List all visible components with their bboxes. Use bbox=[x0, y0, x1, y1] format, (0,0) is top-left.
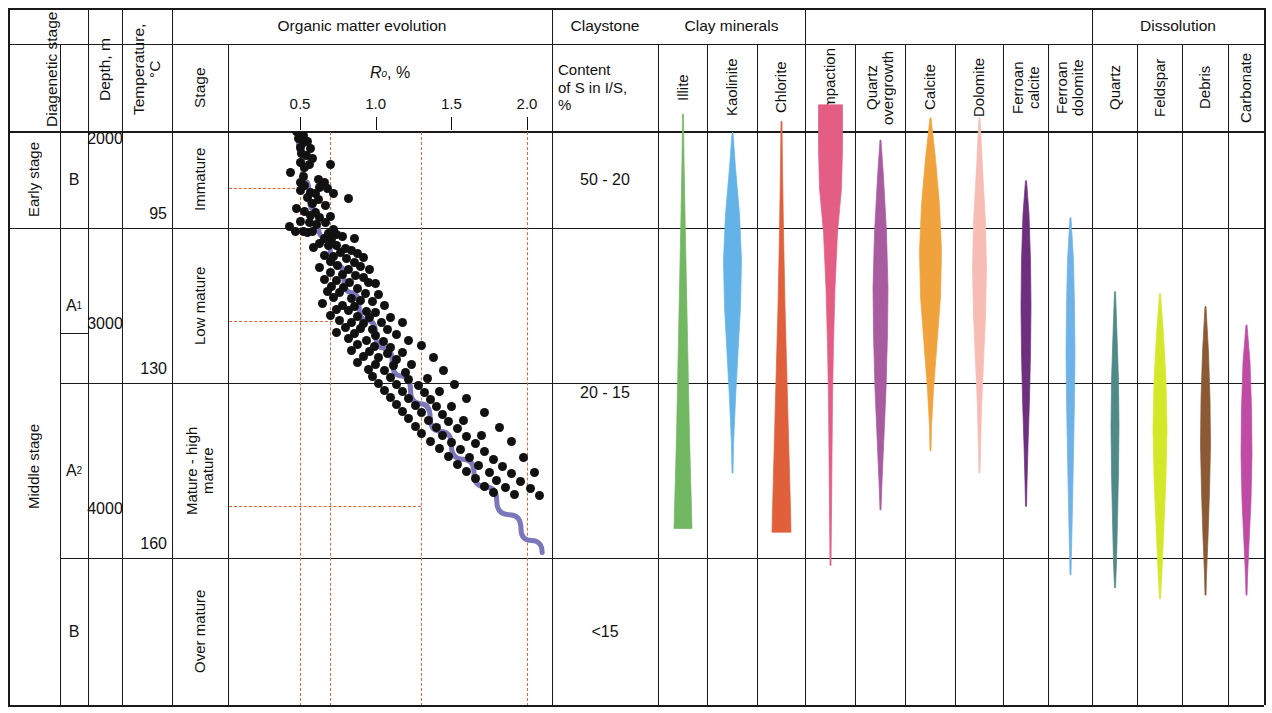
ro-axis-tick bbox=[527, 117, 528, 130]
scatter-point bbox=[326, 160, 335, 169]
stage-middle: Middle stage bbox=[8, 228, 60, 705]
scatter-point bbox=[329, 293, 338, 302]
claystone-value: 50 - 20 bbox=[552, 131, 658, 228]
maturity-stage: Mature - highmature bbox=[172, 383, 228, 558]
abundance-bar-kaolinite bbox=[708, 132, 757, 705]
substage-a2: A2 bbox=[60, 383, 88, 558]
scatter-point bbox=[321, 201, 330, 210]
scatter-point bbox=[417, 341, 426, 350]
claystone-value: 20 - 15 bbox=[552, 228, 658, 558]
substage-a1: A1 bbox=[60, 228, 88, 383]
header-clay-minerals: Clay minerals bbox=[658, 8, 805, 44]
header-diagenetic-stage: Diagenetic stage bbox=[8, 8, 92, 131]
scatter-point bbox=[347, 346, 356, 355]
temperature-label: 130 bbox=[122, 358, 167, 380]
scatter-point bbox=[417, 408, 426, 417]
header-temperature: Temperature,°C bbox=[122, 8, 172, 131]
scatter-point bbox=[315, 263, 324, 272]
scatter-point bbox=[368, 297, 377, 306]
scatter-point bbox=[535, 491, 544, 500]
scatter-point bbox=[485, 468, 494, 477]
scatter-point bbox=[344, 306, 353, 315]
scatter-point bbox=[462, 467, 471, 476]
depth-label: 4000 bbox=[90, 498, 120, 520]
scatter-point bbox=[329, 189, 338, 198]
maturity-stage: Low mature bbox=[172, 228, 228, 383]
scatter-point bbox=[424, 416, 433, 425]
abundance-bar-compaction bbox=[806, 132, 855, 705]
scatter-point bbox=[447, 438, 456, 447]
scatter-point bbox=[341, 323, 350, 332]
scatter-point bbox=[308, 227, 317, 236]
grid-line-vertical bbox=[805, 8, 806, 44]
scatter-point bbox=[404, 375, 413, 384]
grid-line-horizontal bbox=[8, 705, 1264, 707]
ro-axis-tick bbox=[376, 117, 377, 130]
scatter-point bbox=[296, 217, 305, 226]
header-quartz-overgrowth: Quartzovergrowth bbox=[855, 44, 905, 131]
maturity-stage: Immature bbox=[172, 131, 228, 228]
header-chlorite: Chlorite bbox=[757, 44, 805, 131]
header-dissolution-quartz: Quartz bbox=[1092, 44, 1137, 131]
header-kaolinite: Kaolinite bbox=[707, 44, 757, 131]
maturity-stage: Over mature bbox=[172, 558, 228, 705]
scatter-point bbox=[383, 325, 392, 334]
scatter-point bbox=[480, 447, 489, 456]
abundance-bar-dolomite bbox=[956, 132, 1003, 705]
abundance-bar-ferroan-dolomite bbox=[1049, 132, 1092, 705]
header-dissolution: Dissolution bbox=[1092, 8, 1264, 44]
abundance-bar-calcite bbox=[906, 132, 955, 705]
scatter-point bbox=[417, 429, 426, 438]
scatter-point bbox=[489, 455, 498, 464]
scatter-point bbox=[435, 444, 444, 453]
scatter-point bbox=[386, 313, 395, 322]
header-dissolution-feldspar: Feldspar bbox=[1137, 44, 1182, 131]
scatter-point bbox=[447, 402, 456, 411]
abundance-bar-carbonate bbox=[1229, 132, 1264, 705]
header-ferroan-dolomite: Ferroandolomite bbox=[1048, 44, 1092, 131]
scatter-point bbox=[450, 380, 459, 389]
scatter-point bbox=[474, 461, 483, 470]
ro-tick-label: 1.5 bbox=[425, 94, 477, 114]
ro-tick-label: 1.0 bbox=[350, 94, 402, 114]
scatter-point bbox=[359, 253, 368, 262]
substage-b-top: B bbox=[60, 131, 88, 228]
depth-label: 2000 bbox=[90, 128, 120, 150]
header-dissolution-carbonate: Carbonate bbox=[1228, 44, 1264, 131]
organic-matter-scatter-plot bbox=[229, 132, 552, 705]
header-claystone: Claystone bbox=[552, 8, 658, 44]
scatter-point bbox=[462, 432, 471, 441]
scatter-point bbox=[453, 460, 462, 469]
header-claystone-sub: Contentof S in I/S,% bbox=[558, 48, 654, 127]
scatter-point bbox=[444, 452, 453, 461]
scatter-point bbox=[383, 349, 392, 358]
scatter-point bbox=[308, 199, 317, 208]
scatter-point bbox=[423, 374, 432, 383]
scatter-point bbox=[438, 431, 447, 440]
header-stage: Stage bbox=[172, 44, 228, 131]
ro-tick-label: 2.0 bbox=[501, 94, 553, 114]
scatter-point bbox=[444, 417, 453, 426]
scatter-point bbox=[495, 423, 504, 432]
scatter-point bbox=[326, 311, 335, 320]
scatter-point bbox=[492, 476, 501, 485]
ro-tick-label: 0.5 bbox=[274, 94, 326, 114]
claystone-value: <15 bbox=[552, 558, 658, 705]
ro-axis-tick bbox=[451, 117, 452, 130]
temperature-label: 95 bbox=[122, 203, 167, 225]
ro-trend-curve bbox=[229, 132, 552, 705]
diagenesis-chart-root: Organic matter evolutionClaystoneClay mi… bbox=[0, 0, 1272, 713]
header-organic-matter-evolution: Organic matter evolution bbox=[172, 8, 552, 44]
abundance-bar-chlorite bbox=[758, 132, 805, 705]
grid-line-vertical bbox=[1264, 8, 1266, 705]
scatter-point bbox=[338, 232, 347, 241]
scatter-point bbox=[526, 484, 535, 493]
substage-b-bottom: B bbox=[60, 558, 88, 705]
ro-axis-label: Ro, % bbox=[228, 60, 552, 86]
header-depth: Depth, m bbox=[88, 8, 122, 131]
abundance-bar-debris bbox=[1183, 132, 1228, 705]
temperature-label: 160 bbox=[122, 533, 167, 555]
scatter-point bbox=[296, 186, 305, 195]
stage-early: Early stage bbox=[8, 131, 60, 228]
abundance-bar-quartz-overgrowth bbox=[856, 132, 905, 705]
